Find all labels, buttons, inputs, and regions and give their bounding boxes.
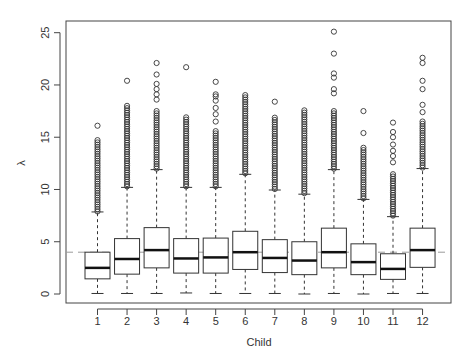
outlier-point [390,120,395,125]
box-group-1 [85,123,110,293]
outlier-point [213,79,218,84]
outliers [331,29,336,171]
box-group-8 [292,108,317,294]
iqr-box [292,242,317,275]
box-group-6 [233,92,258,293]
y-tick-label: 10 [39,183,51,195]
outlier-point [390,135,395,140]
outliers [124,78,129,189]
outlier-point [420,102,425,107]
outlier-point [390,160,395,165]
outlier-point [213,119,218,124]
outlier-point [420,110,425,115]
x-axis-title: Child [246,336,271,348]
outlier-point [361,108,366,113]
outlier-point [213,105,218,110]
box-group-11 [381,120,406,293]
outlier-point [154,81,159,86]
outliers [95,123,100,214]
box-group-4 [174,65,199,293]
x-tick-label: 8 [301,315,307,327]
outlier-point [124,78,129,83]
box-group-3 [144,60,169,293]
y-axis-title: λ [15,160,27,166]
y-tick-label: 0 [39,291,51,297]
outlier-point [420,87,425,92]
iqr-box [233,231,258,269]
boxplot-chart: 0510152025 123456789101112 Child λ [0,0,471,361]
box-group-7 [262,99,287,293]
y-tick-label: 20 [39,79,51,91]
iqr-box [174,239,199,273]
box-group-10 [351,108,376,294]
outlier-point [390,129,395,134]
iqr-box [262,240,287,273]
y-tick-label: 15 [39,131,51,143]
outliers [184,65,189,189]
x-axis: 123456789101112 [94,309,428,327]
outlier-point [95,123,100,128]
x-tick-label: 2 [124,315,130,327]
iqr-box [203,238,228,273]
outliers [302,108,307,196]
outlier-point [361,130,366,135]
outlier-point [331,29,336,34]
x-tick-label: 5 [213,315,219,327]
y-tick-label: 5 [39,239,51,245]
x-tick-label: 7 [272,315,278,327]
outlier-point [154,87,159,92]
outliers [213,79,218,189]
outliers [420,55,425,170]
box-group-5 [203,79,228,293]
iqr-box [85,252,110,279]
x-tick-label: 11 [387,315,398,327]
x-tick-label: 6 [242,315,248,327]
box-series [85,29,435,294]
box-group-12 [410,55,435,293]
iqr-box [144,228,169,268]
outlier-point [272,99,277,104]
outliers [361,108,366,200]
box-group-9 [321,29,346,293]
outlier-point [390,153,395,158]
x-tick-label: 4 [183,315,189,327]
outlier-point [154,97,159,102]
iqr-box [351,244,376,275]
x-tick-label: 9 [331,315,337,327]
outlier-point [420,55,425,60]
outlier-point [420,60,425,65]
outlier-point [420,78,425,83]
outliers [154,60,159,171]
outlier-point [390,148,395,153]
y-axis: 0510152025 [39,27,60,297]
outlier-point [154,60,159,65]
iqr-box [410,228,435,267]
outlier-point [154,72,159,77]
outlier-point [213,112,218,117]
iqr-box [115,239,140,275]
outlier-point [390,142,395,147]
x-tick-label: 1 [94,315,100,327]
x-tick-label: 10 [357,315,369,327]
outlier-point [184,65,189,70]
x-tick-label: 3 [154,315,160,327]
iqr-box [321,228,346,268]
y-tick-label: 25 [39,27,51,39]
outlier-point [331,51,336,56]
outliers [390,120,395,218]
outlier-point [154,92,159,97]
outliers [272,99,277,191]
box-group-2 [115,78,140,293]
outliers [243,92,248,175]
x-tick-label: 12 [416,315,428,327]
iqr-box [381,254,406,280]
